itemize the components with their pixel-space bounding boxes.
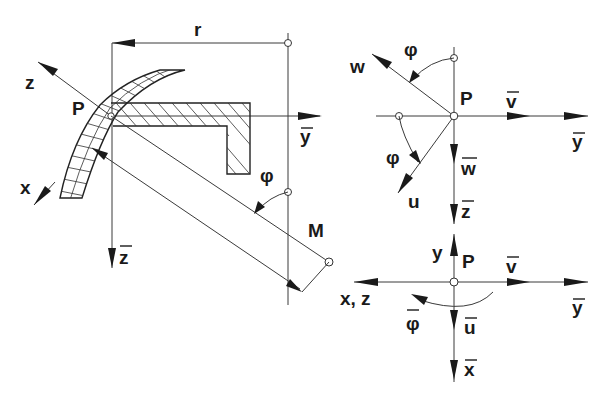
z-bar-label-tr: z <box>461 201 471 222</box>
y-label: y <box>432 242 443 263</box>
z-bar-arrowhead-icon <box>108 248 116 268</box>
radial-line-to-m <box>111 116 329 262</box>
z-arrowhead-icon <box>38 62 58 76</box>
y-bar-arrowhead-icon <box>298 112 322 120</box>
v-bar-label-tr: v <box>506 91 517 112</box>
y-bar-arrowhead-tr-icon <box>564 112 588 120</box>
w-label: w <box>349 56 365 77</box>
left-view: r z P x y z φ M <box>20 19 333 305</box>
phi-arrowhead-icon <box>254 201 265 214</box>
phi-top-label: φ <box>404 39 418 60</box>
top-right-view: w φ P v y φ w u z <box>349 39 588 224</box>
phi-bar-arrowhead-icon <box>411 294 428 305</box>
v-bar-arrowhead-br-icon <box>507 278 530 286</box>
flange-section <box>111 103 250 174</box>
y-bar-label-tr: y <box>572 131 583 152</box>
y-bar-arrowhead-br-icon <box>564 278 588 286</box>
z-bar-label-left: z <box>119 247 129 268</box>
radial-dim-arrow-start-icon <box>92 148 108 160</box>
p-label-tr: P <box>460 88 473 109</box>
flange-hatch <box>110 96 260 202</box>
xz-arrowhead-icon <box>354 278 378 286</box>
y-bar-label-br: y <box>572 297 583 318</box>
bottom-right-view: y P v x, z y φ u x <box>340 234 588 382</box>
v-bar-arrowhead-icon <box>507 112 530 120</box>
curved-beam-hatch <box>55 66 175 200</box>
p-label-left: P <box>72 98 85 119</box>
r-arrowhead-icon <box>112 39 135 47</box>
u-label: u <box>408 191 420 212</box>
v-bar-label-br: v <box>506 256 517 277</box>
x-bar-arrowhead-icon <box>450 360 458 380</box>
m-leader-line <box>302 262 329 292</box>
phi-label-left: φ <box>260 165 274 186</box>
w-bar-arrowhead-icon <box>450 144 458 164</box>
center-node-top <box>285 40 292 47</box>
z-label: z <box>25 72 35 93</box>
diagram-canvas: r z P x y z φ M w φ P v y φ <box>0 0 605 400</box>
y-bar-label-left: y <box>300 126 311 147</box>
x-label: x <box>20 177 31 198</box>
phi-bottom-label: φ <box>386 147 400 168</box>
x-bar-label: x <box>464 359 475 380</box>
u-bar-label: u <box>464 317 476 338</box>
phi-bottom-arrowhead-icon <box>409 150 421 164</box>
xz-label: x, z <box>340 288 371 309</box>
phi-top-arrowhead-icon <box>409 70 420 83</box>
phi-bar-label: φ <box>406 313 420 334</box>
point-p-node-br <box>450 278 458 286</box>
u-bar-arrowhead-icon <box>450 310 458 330</box>
p-label-br: P <box>462 251 475 272</box>
z-bar-arrowhead-tr-icon <box>450 204 458 224</box>
point-p-node-tr <box>450 112 458 120</box>
r-label: r <box>194 19 202 40</box>
y-arrowhead-icon <box>450 234 458 256</box>
w-bar-label: w <box>460 158 476 179</box>
m-label: M <box>308 220 324 241</box>
phi-bar-arc <box>420 292 493 306</box>
curved-beam-diagram: r z P x y z φ M w φ P v y φ <box>0 0 605 400</box>
